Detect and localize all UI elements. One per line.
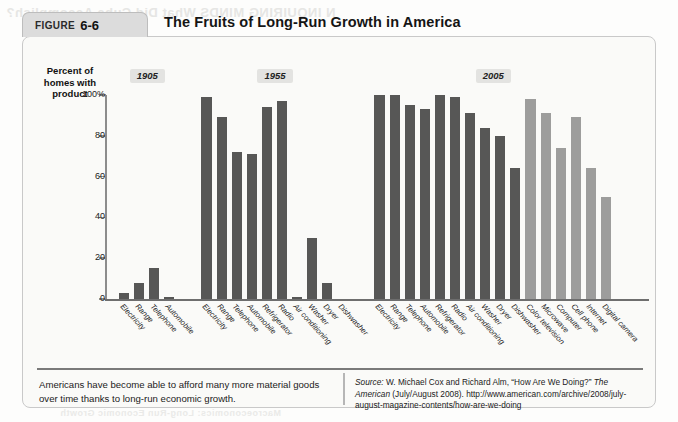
bar-range-1955 bbox=[217, 117, 227, 299]
bar-electricity-1905 bbox=[119, 293, 129, 299]
bar-washer-1955 bbox=[307, 238, 317, 299]
bar-telephone-1955 bbox=[232, 152, 242, 299]
y-tick-label: 20 bbox=[43, 252, 105, 262]
bar-air-conditioning-1955 bbox=[292, 297, 302, 299]
bar-dishwasher-2005 bbox=[510, 168, 520, 299]
figure-tab-label: FIGURE bbox=[35, 20, 75, 31]
footer-divider bbox=[37, 368, 643, 370]
figure-source: Source: W. Michael Cox and Richard Alm, … bbox=[355, 377, 645, 412]
bar-dryer-2005 bbox=[495, 136, 505, 299]
bar-radio-1955 bbox=[277, 101, 287, 299]
bar-automobile-2005 bbox=[420, 109, 430, 299]
bar-electricity-2005 bbox=[374, 95, 384, 299]
bar-range-2005 bbox=[390, 95, 400, 299]
y-tick-label: 80 bbox=[43, 130, 105, 140]
bar-radio-2005 bbox=[450, 97, 460, 299]
era-label-2005: 2005 bbox=[476, 69, 511, 83]
bar-computer-2005 bbox=[556, 148, 566, 299]
bar-color-television-2005 bbox=[525, 99, 535, 299]
bar-automobile-1905 bbox=[164, 297, 174, 299]
figure-title: The Fruits of Long-Run Growth in America bbox=[164, 14, 461, 30]
bar-digital-camera-2005 bbox=[601, 197, 611, 299]
source-text: W. Michael Cox and Richard Alm, “How Are… bbox=[384, 377, 594, 387]
bar-group bbox=[105, 95, 649, 299]
bar-washer-2005 bbox=[480, 128, 490, 299]
bar-electricity-1955 bbox=[201, 97, 211, 299]
figure-container: FIGURE 6-6 The Fruits of Long-Run Growth… bbox=[22, 12, 656, 408]
x-axis-label: Dishwasher bbox=[336, 302, 370, 337]
x-axis-label-group: ElectricityRangeTelephoneAutomobileElect… bbox=[105, 302, 649, 362]
figure-body-panel: Percent of homes with product 0204060801… bbox=[22, 36, 656, 408]
bar-automobile-1955 bbox=[247, 154, 257, 299]
bar-telephone-1905 bbox=[149, 268, 159, 299]
figure-caption: Americans have become able to afford man… bbox=[39, 378, 327, 405]
era-label-1905: 1905 bbox=[130, 69, 165, 83]
y-tick-label: 0 bbox=[43, 293, 105, 303]
bar-air-conditioning-2005 bbox=[465, 113, 475, 299]
y-tick-label: 60 bbox=[43, 171, 105, 181]
bar-telephone-2005 bbox=[405, 105, 415, 299]
bleed-through-text-bottom: Macroeconomics: Long-Run Economic Growth bbox=[60, 408, 281, 418]
y-tick-label: 100% bbox=[43, 89, 105, 99]
x-axis-line bbox=[105, 299, 649, 301]
footer-vertical-divider bbox=[343, 373, 345, 405]
bar-refrigerator-1955 bbox=[262, 107, 272, 299]
y-tick-label: 40 bbox=[43, 211, 105, 221]
source-tail: (July/August 2008). http://www.american.… bbox=[355, 389, 626, 411]
bar-chart: Percent of homes with product 0204060801… bbox=[29, 59, 651, 359]
bar-range-1905 bbox=[134, 283, 144, 299]
bar-dryer-1955 bbox=[322, 283, 332, 299]
bar-microwave-2005 bbox=[541, 113, 551, 299]
bar-cell-phone-2005 bbox=[571, 117, 581, 299]
source-prefix: Source: bbox=[355, 377, 384, 387]
bar-refrigerator-2005 bbox=[435, 95, 445, 299]
bar-internet-2005 bbox=[586, 168, 596, 299]
figure-number-tab: FIGURE 6-6 bbox=[22, 12, 148, 37]
era-label-1955: 1955 bbox=[257, 69, 292, 83]
y-axis: 020406080100% bbox=[29, 59, 105, 319]
figure-tab-number: 6-6 bbox=[80, 18, 99, 33]
